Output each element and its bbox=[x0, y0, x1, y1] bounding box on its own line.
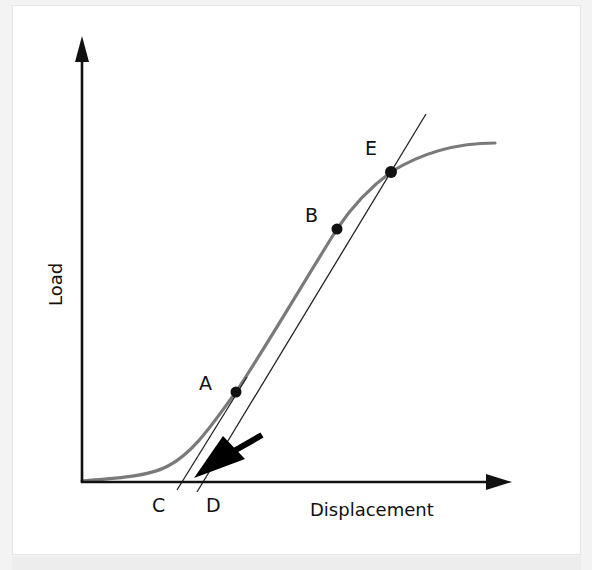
y-axis-label: Load bbox=[45, 263, 66, 306]
label-e: E bbox=[365, 137, 377, 159]
y-axis-arrowhead-icon bbox=[75, 36, 89, 62]
label-d: D bbox=[206, 494, 221, 516]
load-displacement-curve bbox=[82, 143, 495, 481]
load-displacement-diagram: A B E C D Displacement Load bbox=[0, 0, 592, 570]
label-b: B bbox=[305, 204, 318, 226]
point-a bbox=[231, 387, 242, 398]
point-b bbox=[332, 224, 343, 235]
x-axis-arrowhead-icon bbox=[486, 474, 512, 490]
pointer-arrow-icon bbox=[194, 435, 262, 478]
label-c: C bbox=[152, 494, 165, 516]
point-e bbox=[385, 166, 397, 178]
x-axis-label: Displacement bbox=[310, 499, 434, 520]
label-a: A bbox=[199, 372, 212, 394]
